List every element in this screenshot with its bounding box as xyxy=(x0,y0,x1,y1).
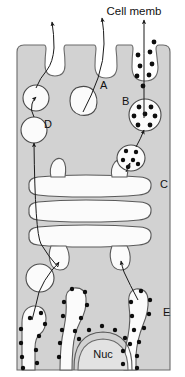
label-nuc-text: Nuc xyxy=(93,348,113,360)
cell-membrane-label: Cell memb xyxy=(101,5,167,18)
label-d: D xyxy=(44,118,52,130)
vesicle-upper-left xyxy=(23,85,49,111)
label-d-text: D xyxy=(44,118,52,130)
golgi-cisterna-middle xyxy=(29,200,151,222)
granule-immature xyxy=(117,145,145,171)
label-b: B xyxy=(122,95,129,107)
vesicle-lower-left xyxy=(26,264,54,292)
label-e-text: E xyxy=(163,306,170,318)
golgi-bud-right xyxy=(110,246,130,270)
golgi-cisterna-bottom xyxy=(29,225,151,247)
golgi-bud-left xyxy=(49,246,69,270)
label-nuc: Nuc xyxy=(87,348,119,360)
label-c: C xyxy=(160,178,168,190)
label-c-text: C xyxy=(160,178,168,190)
cell-membrane-label-text: Cell memb xyxy=(107,5,162,17)
label-e: E xyxy=(163,306,170,318)
golgi-cisterna-top xyxy=(29,175,151,197)
cell-diagram: Cell memb xyxy=(0,0,185,377)
label-b-text: B xyxy=(122,95,129,107)
label-a: A xyxy=(100,79,107,91)
label-a-text: A xyxy=(100,79,107,91)
figure-canvas: Cell memb Cell memb A B C D E Nuc xyxy=(0,0,185,377)
